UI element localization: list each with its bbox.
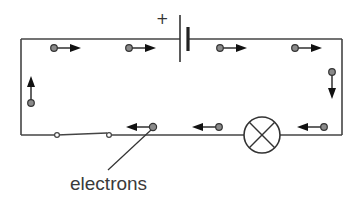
electron-right	[328, 69, 336, 99]
battery-symbol: +	[156, 10, 188, 62]
electron-dot	[329, 69, 336, 76]
switch-symbol	[55, 133, 112, 138]
switch-contact-left	[55, 133, 60, 138]
electron-left	[27, 76, 35, 106]
arrow-right-icon	[236, 44, 247, 52]
circuit-diagram: +	[0, 0, 364, 199]
electron-bottom-1	[126, 123, 157, 131]
electron-top-3	[217, 44, 247, 52]
electron-bottom-3	[297, 123, 327, 131]
arrow-up-icon	[27, 76, 35, 87]
electron-dot	[292, 45, 299, 52]
electron-top-1	[51, 44, 81, 52]
arrow-down-icon	[328, 88, 336, 99]
electron-dot	[28, 100, 35, 107]
electron-dot	[216, 124, 223, 131]
arrow-left-icon	[192, 123, 203, 131]
electron-dot	[149, 123, 156, 130]
arrow-left-icon	[126, 123, 137, 131]
switch-contact-right	[107, 133, 112, 138]
arrow-right-icon	[145, 44, 156, 52]
electron-bottom-2	[192, 123, 222, 131]
arrow-right-icon	[311, 44, 322, 52]
electron-dot	[51, 45, 58, 52]
switch-lever	[57, 133, 107, 135]
arrow-right-icon	[70, 44, 81, 52]
electron-top-2	[126, 44, 156, 52]
lamp-symbol	[244, 117, 280, 153]
electron-dot	[126, 45, 133, 52]
electron-top-4	[292, 44, 322, 52]
electron-dot	[217, 45, 224, 52]
battery-positive-label: +	[156, 10, 169, 28]
circuit-wires	[21, 39, 342, 135]
electron-dot	[321, 124, 328, 131]
arrow-left-icon	[297, 123, 308, 131]
electrons-label: electrons	[70, 173, 147, 194]
callout-pointer-line	[108, 130, 151, 170]
